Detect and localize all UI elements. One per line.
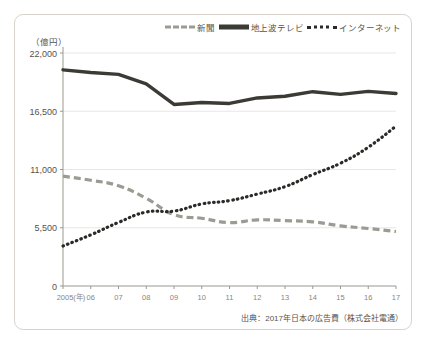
x-tick-label: 09 [170,293,178,302]
x-tick-label: 14 [309,293,317,302]
x-tick-label: 17 [392,293,400,302]
x-tick-label: 10 [198,293,206,302]
y-tick-label: 11,000 [30,165,57,175]
chart-figure-frame: 新聞 地上波テレビ インターネット （億円） 05,50011,00016,50… [14,14,412,330]
x-tick-label: 08 [142,293,150,302]
x-tick-label: 13 [281,293,289,302]
x-tick-label: 07 [114,293,122,302]
x-tick-label: 15 [336,293,344,302]
chart-plot: 05,50011,00016,50022,000 2005(年)06070809… [15,15,411,329]
series-line-terrestrial-tv [63,70,396,105]
x-tick-label: 16 [364,293,372,302]
y-tick-label: 22,000 [29,49,57,59]
x-tick-label: 12 [253,293,261,302]
y-tick-label: 5,500 [34,223,57,233]
y-axis-ticks-group: 05,50011,00016,50022,000 [29,49,63,292]
y-tick-label: 16,500 [29,107,57,117]
series-line-newspaper [63,176,396,231]
x-axis-ticks-group: 2005(年)060708091011121314151617 [57,286,401,302]
x-tick-label: 2005(年) [57,292,86,302]
y-tick-label: 0 [52,282,57,292]
source-note: 出典：2017年日本の広告費（株式会社電通） [241,312,403,323]
x-tick-label: 11 [226,293,234,302]
x-tick-label: 06 [87,293,95,302]
